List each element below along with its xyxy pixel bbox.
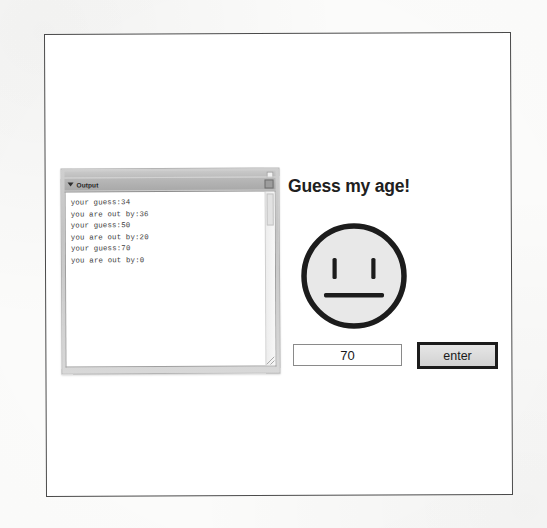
console-line: you are out by:0 <box>71 254 275 267</box>
enter-button[interactable]: enter <box>417 342 498 369</box>
console-vertical-scrollbar[interactable] <box>265 191 276 365</box>
page-title: Guess my age! <box>288 176 410 197</box>
console-line-list: your guess:34 you are out by:36 your gue… <box>66 191 275 267</box>
output-window-title: Output <box>77 181 99 188</box>
scrollbar-thumb[interactable] <box>267 193 274 225</box>
neutral-face-icon <box>299 221 409 331</box>
triangle-down-icon[interactable] <box>68 183 74 187</box>
output-window-titlebar[interactable]: Output <box>65 176 276 190</box>
console-output-area[interactable]: your guess:34 you are out by:36 your gue… <box>65 190 277 367</box>
output-window[interactable]: Output your guess:34 you are out by:36 y… <box>60 167 280 374</box>
guess-controls-row: enter <box>293 342 498 372</box>
window-menu-icon[interactable] <box>265 179 274 188</box>
resize-grip-icon[interactable] <box>266 356 274 364</box>
guess-input[interactable] <box>293 344 402 366</box>
screenshot-content: Output your guess:34 you are out by:36 y… <box>0 0 547 528</box>
